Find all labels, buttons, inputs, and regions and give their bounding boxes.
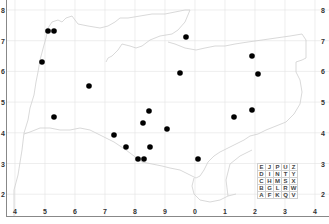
x-axis-label: 9 bbox=[160, 208, 170, 215]
location-marker[interactable] bbox=[164, 126, 170, 132]
letter-grid-cell: E bbox=[258, 164, 266, 171]
letter-grid-cell: T bbox=[282, 171, 290, 178]
location-marker[interactable] bbox=[231, 114, 237, 120]
location-marker[interactable] bbox=[111, 132, 117, 138]
location-marker[interactable] bbox=[177, 70, 183, 76]
letter-grid-cell: V bbox=[290, 192, 298, 199]
letter-grid-cell: S bbox=[282, 178, 290, 185]
x-axis-label: 4 bbox=[10, 208, 20, 215]
letter-grid-cell: K bbox=[274, 192, 282, 199]
x-axis-label: 1 bbox=[220, 208, 230, 215]
y-axis-label: 2 bbox=[1, 191, 5, 198]
y-axis-label: 4 bbox=[321, 130, 325, 137]
letter-grid-cell: N bbox=[274, 171, 282, 178]
location-marker[interactable] bbox=[195, 156, 201, 162]
letter-grid-row: CHMSX bbox=[258, 178, 298, 185]
y-axis-label: 2 bbox=[321, 191, 325, 198]
location-marker[interactable] bbox=[45, 28, 51, 34]
location-marker[interactable] bbox=[51, 114, 57, 120]
letter-grid-cell: C bbox=[258, 178, 266, 185]
y-axis-label: 3 bbox=[321, 161, 325, 168]
y-axis-label: 5 bbox=[321, 99, 325, 106]
y-axis-label: 5 bbox=[1, 99, 5, 106]
y-axis-label: 7 bbox=[1, 38, 5, 45]
letter-grid-cell: I bbox=[266, 171, 274, 178]
location-marker[interactable] bbox=[123, 144, 129, 150]
letter-grid-cell: M bbox=[274, 178, 282, 185]
location-marker[interactable] bbox=[183, 34, 189, 40]
letter-grid-cell: U bbox=[282, 164, 290, 171]
letter-grid-cell: X bbox=[290, 178, 298, 185]
x-axis-label: 7 bbox=[100, 208, 110, 215]
letter-grid-cell: Q bbox=[282, 192, 290, 199]
letter-grid-cell: B bbox=[258, 185, 266, 192]
location-marker[interactable] bbox=[255, 71, 261, 77]
y-axis-label: 7 bbox=[321, 38, 325, 45]
letter-grid-cell: G bbox=[266, 185, 274, 192]
letter-grid-cell: D bbox=[258, 171, 266, 178]
letter-grid-row: DINTY bbox=[258, 171, 298, 178]
y-axis-label: 4 bbox=[1, 130, 5, 137]
x-axis-label: 5 bbox=[40, 208, 50, 215]
x-axis-label: 4 bbox=[310, 208, 320, 215]
location-marker[interactable] bbox=[135, 156, 141, 162]
location-marker[interactable] bbox=[140, 120, 146, 126]
x-axis-label: 0 bbox=[190, 208, 200, 215]
letter-grid-cell: R bbox=[282, 185, 290, 192]
location-marker[interactable] bbox=[141, 156, 147, 162]
letter-grid-row: AFKQV bbox=[258, 192, 298, 199]
letter-grid-row: BGLRW bbox=[258, 185, 298, 192]
data-points bbox=[39, 28, 261, 162]
letter-grid-row: EJPUZ bbox=[258, 164, 298, 171]
location-marker[interactable] bbox=[249, 107, 255, 113]
y-axis-label: 6 bbox=[321, 68, 325, 75]
letter-grid-cell: P bbox=[274, 164, 282, 171]
location-marker[interactable] bbox=[146, 108, 152, 114]
x-axis-label: 8 bbox=[130, 208, 140, 215]
y-axis-label: 8 bbox=[321, 7, 325, 14]
location-marker[interactable] bbox=[249, 53, 255, 59]
location-marker[interactable] bbox=[39, 59, 45, 65]
letter-grid-cell: Y bbox=[290, 171, 298, 178]
letter-grid-cell: Z bbox=[290, 164, 298, 171]
location-marker[interactable] bbox=[86, 83, 92, 89]
letter-grid-cell: W bbox=[290, 185, 298, 192]
location-marker[interactable] bbox=[147, 144, 153, 150]
letter-grid-cell: L bbox=[274, 185, 282, 192]
x-axis-label: 6 bbox=[70, 208, 80, 215]
y-axis-label: 6 bbox=[1, 68, 5, 75]
location-marker[interactable] bbox=[51, 28, 57, 34]
y-axis-label: 3 bbox=[1, 161, 5, 168]
letter-grid-cell: A bbox=[258, 192, 266, 199]
letter-grid-cell: J bbox=[266, 164, 274, 171]
x-axis-label: 2 bbox=[250, 208, 260, 215]
letter-grid-cell: H bbox=[266, 178, 274, 185]
y-axis-label: 8 bbox=[1, 7, 5, 14]
grid-letter-key: EJPUZDINTYCHMSXBGLRWAFKQV bbox=[257, 163, 298, 199]
letter-grid-cell: F bbox=[266, 192, 274, 199]
x-axis-label: 3 bbox=[280, 208, 290, 215]
